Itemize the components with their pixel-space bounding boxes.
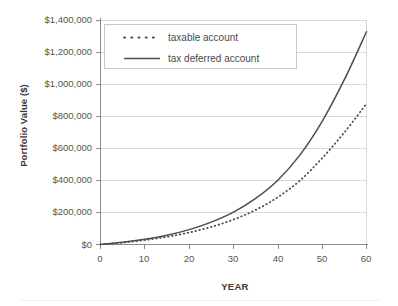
legend: taxable account tax deferred account <box>104 24 297 69</box>
x-tick-label: 40 <box>263 253 293 264</box>
x-tick-label: 10 <box>129 253 159 264</box>
legend-label: tax deferred account <box>168 53 259 64</box>
y-axis-ticks <box>96 21 100 245</box>
x-tick-label: 20 <box>174 253 204 264</box>
x-tick-label: 50 <box>307 253 337 264</box>
x-tick-label: 30 <box>218 253 248 264</box>
series-line-taxable-account <box>101 104 367 245</box>
portfolio-growth-chart: Portfolio Value ($) $1,400,000 $1,200,00… <box>0 0 398 306</box>
legend-swatch-solid-line <box>123 53 161 63</box>
legend-swatch-dotted-line <box>123 32 161 42</box>
bottom-divider <box>20 300 380 301</box>
legend-item-tax-deferred-account: tax deferred account <box>105 47 296 69</box>
x-axis-title: YEAR <box>100 281 370 292</box>
x-tick-label: 0 <box>85 253 115 264</box>
x-axis-ticks <box>101 245 367 249</box>
legend-item-taxable-account: taxable account <box>105 26 296 48</box>
legend-label: taxable account <box>168 32 238 43</box>
x-tick-label: 60 <box>351 253 381 264</box>
